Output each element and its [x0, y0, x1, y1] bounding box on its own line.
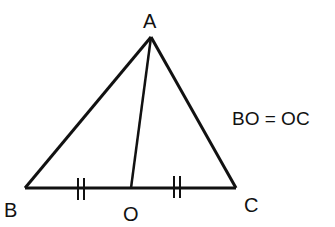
label-o: O [123, 203, 139, 225]
relation-text: BO = OC [232, 108, 310, 129]
triangle-diagram: A B O C BO = OC [0, 0, 335, 227]
segment-ab [25, 37, 151, 188]
label-a: A [143, 10, 157, 32]
label-b: B [4, 199, 17, 221]
segment-ac [151, 37, 236, 188]
label-c: C [244, 194, 258, 216]
